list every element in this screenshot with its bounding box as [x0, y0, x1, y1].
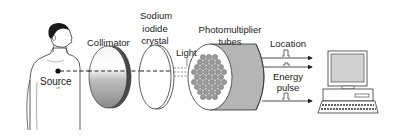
computer-icon [318, 51, 378, 113]
sodium-iodide-crystal [139, 45, 174, 109]
location-label: Location [266, 39, 310, 49]
energy-label-line1: Energy [266, 72, 310, 82]
source-label: Source [40, 77, 72, 87]
energy-pulse-icon [282, 93, 290, 99]
crystal-label-line3: crystal [138, 36, 172, 46]
small-pulse-icon [283, 63, 290, 65]
crystal-label-line1: Sodium [140, 11, 170, 21]
pmt-label-line2: tubes [194, 37, 266, 47]
energy-label-line2: pulse [266, 83, 310, 93]
collimator [89, 46, 131, 108]
location-pulse-icon [282, 50, 290, 56]
photomultiplier-tubes [188, 44, 264, 110]
source-dot [55, 68, 60, 73]
light-label: Light [176, 48, 197, 58]
gamma-camera-diagram: Source Collimator Sodium iodide crystal … [0, 0, 393, 138]
pmt-label-line1: Photomultiplier [194, 25, 266, 35]
collimator-label: Collimator [87, 38, 130, 48]
crystal-label-line2: iodide [140, 24, 170, 34]
